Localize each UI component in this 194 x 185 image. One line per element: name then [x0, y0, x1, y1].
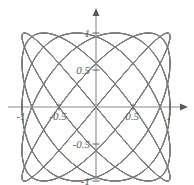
lissajous-plot-figure: -1-0.50.5110.5-0.5-1 — [0, 0, 194, 185]
y-tick-label-0.5: 0.5 — [76, 64, 90, 76]
y-axis-arrowhead — [93, 8, 100, 16]
y-tick-label--1: -1 — [81, 175, 90, 185]
x-tick-label-0.5: 0.5 — [125, 110, 139, 122]
y-tick-label-1: 1 — [85, 27, 91, 39]
axes-group — [8, 8, 188, 180]
y-tick-label--0.5: -0.5 — [73, 138, 91, 150]
x-tick-label-1: 1 — [166, 110, 172, 122]
x-tick-label--0.5: -0.5 — [49, 110, 67, 122]
x-axis-arrowhead — [180, 104, 188, 111]
tick-labels-group: -1-0.50.5110.5-0.5-1 — [16, 27, 171, 185]
x-tick-label--1: -1 — [16, 110, 25, 122]
plot-canvas: -1-0.50.5110.5-0.5-1 — [0, 0, 194, 185]
